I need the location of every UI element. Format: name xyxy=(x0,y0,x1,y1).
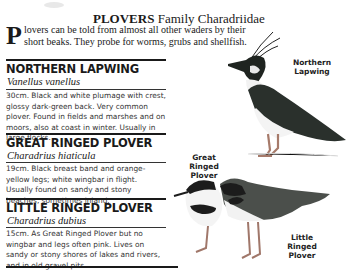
label-great-ringed-plover: Great Ringed Plover xyxy=(180,153,228,180)
subsection-divider xyxy=(6,227,166,228)
bottom-divider xyxy=(6,266,178,268)
label-little-ringed-plover: Little Ringed Plover xyxy=(278,233,326,260)
species-name-lapwing: NORTHERN LAPWING xyxy=(6,62,139,76)
species-name-great-ringed: GREAT RINGED PLOVER xyxy=(6,136,152,150)
species-latin-great-ringed: Charadrius hiaticula xyxy=(7,150,95,161)
section-divider xyxy=(6,59,166,61)
species-latin-lapwing: Vanellus vanellus xyxy=(7,76,80,87)
subsection-divider xyxy=(6,89,166,90)
species-latin-little-ringed: Charadrius dubius xyxy=(7,215,86,226)
species-name-little-ringed: LITTLE RINGED PLOVER xyxy=(6,201,153,215)
lapwing-illustration xyxy=(198,22,348,162)
subsection-divider xyxy=(6,162,166,163)
section-divider xyxy=(6,133,166,135)
section-divider xyxy=(6,198,166,200)
label-northern-lapwing: Northern Lapwing xyxy=(292,58,332,76)
drop-cap: P xyxy=(6,24,22,48)
decorative-smudge xyxy=(44,2,64,8)
species-desc-little-ringed: 15cm. As Great Ringed Plover but no wing… xyxy=(6,229,166,271)
